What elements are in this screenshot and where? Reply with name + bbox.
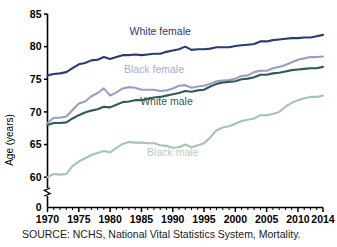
source-note: SOURCE: NCHS, National Vital Statistics … xyxy=(22,228,337,241)
y-axis-title: Age (years) xyxy=(4,114,15,166)
x-tick-label: 1975 xyxy=(67,213,91,225)
y-tick-label: 65 xyxy=(30,138,42,150)
series-line-black-male xyxy=(48,96,324,178)
y-tick-label: 80 xyxy=(30,40,42,52)
series-line-black-female xyxy=(48,56,324,123)
y-axis: 0606570758085 xyxy=(30,8,50,214)
life-expectancy-chart-figure: 0606570758085 19701975198019851990199520… xyxy=(0,0,337,247)
y-tick-label: 70 xyxy=(30,106,42,118)
chart-plot-area: 0606570758085 19701975198019851990199520… xyxy=(0,0,337,247)
y-tick-label: 0 xyxy=(36,201,42,213)
y-tick-label: 85 xyxy=(30,8,42,20)
x-tick-label: 2005 xyxy=(255,213,279,225)
y-tick-label: 75 xyxy=(30,73,42,85)
series-label-black-male: Black male xyxy=(147,146,199,158)
x-tick-label: 1990 xyxy=(161,213,185,225)
y-tick-label: 60 xyxy=(30,171,42,183)
x-axis: 1970197519801985199019952000200520102014 xyxy=(36,208,335,226)
x-tick-label: 1985 xyxy=(130,213,154,225)
x-tick-label: 1970 xyxy=(36,213,60,225)
x-tick-label: 2010 xyxy=(286,213,310,225)
series-label-black-female: Black female xyxy=(124,63,184,75)
x-tick-label: 2000 xyxy=(224,213,248,225)
series-label-white-female: White female xyxy=(130,25,191,37)
series-label-white-male: White male xyxy=(140,95,193,107)
x-tick-label: 1995 xyxy=(192,213,216,225)
x-tick-label: 1980 xyxy=(98,213,122,225)
x-tick-label: 2014 xyxy=(311,213,335,225)
series-line-white-female xyxy=(48,35,324,75)
